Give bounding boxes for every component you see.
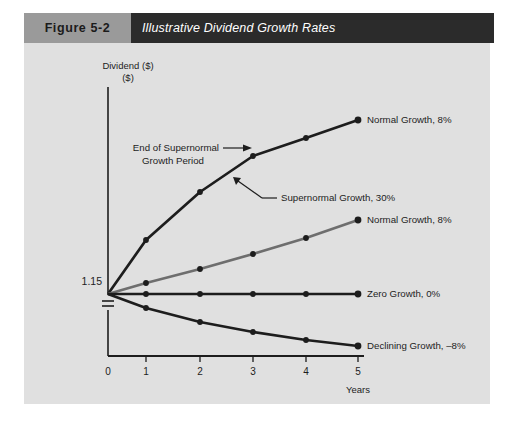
series-line-declining <box>108 294 358 346</box>
x-tick-label-2: 2 <box>197 366 203 377</box>
annotation-supernormal-growth: Supernormal Growth, 30% <box>281 192 396 203</box>
y-axis-unit-label: ($) <box>122 72 134 83</box>
x-tick-label-3: 3 <box>250 366 256 377</box>
series-label-declining-end: Declining Growth, –8% <box>367 340 466 351</box>
x-tick-label-4: 4 <box>303 366 309 377</box>
series-label-zero-end: Zero Growth, 0% <box>367 288 441 299</box>
annotation-end-supernormal-line1: End of Supernormal <box>133 142 219 153</box>
x-axis-title: Years <box>346 384 370 395</box>
x-tick-label-0: 0 <box>105 366 111 377</box>
figure-panel: Figure 5-2 Illustrative Dividend Growth … <box>24 13 490 404</box>
annotation-end-supernormal-line2: Growth Period <box>142 155 204 166</box>
annotation-end-supernormal-arrowhead <box>243 145 252 152</box>
x-tick-label-1: 1 <box>143 366 149 377</box>
y-axis-title-line1: Dividend ($) <box>102 60 153 71</box>
series-label-normal-end: Normal Growth, 8% <box>367 214 452 225</box>
series-label-supernormal-end: Normal Growth, 8% <box>367 114 452 125</box>
annotation-supernormal-leader-diagonal <box>238 181 262 198</box>
annotation-supernormal-arrowhead <box>233 177 241 185</box>
series-markers-supernormal <box>143 117 361 243</box>
x-tick-label-5: 5 <box>355 366 361 377</box>
chart-plot-area: Dividend ($) ($) 1.15 0 1 2 3 4 5 Years <box>24 13 490 404</box>
y-axis-value-label: 1.15 <box>82 275 103 287</box>
